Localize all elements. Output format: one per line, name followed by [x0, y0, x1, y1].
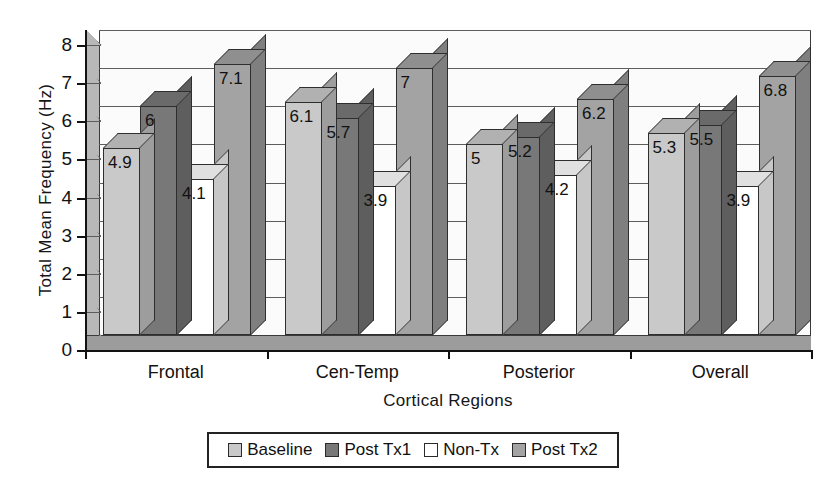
bar — [285, 102, 322, 335]
legend-swatch-icon — [512, 443, 526, 457]
bar-side-face — [796, 46, 811, 335]
y-axis-tick-label: 0 — [0, 340, 72, 359]
bar-value-label: 5.2 — [508, 143, 532, 160]
legend-item[interactable]: Non-Tx — [424, 440, 499, 460]
x-axis-group-label: Frontal — [86, 362, 266, 383]
legend-item[interactable]: Post Tx1 — [325, 440, 411, 460]
bar — [648, 133, 685, 335]
x-axis-tick — [267, 350, 269, 359]
bar-value-label: 5.3 — [653, 139, 677, 156]
bar-value-label: 4.1 — [182, 185, 206, 202]
bar-value-label: 4.2 — [545, 181, 569, 198]
bar-side-face — [359, 88, 374, 335]
bar-side-face — [177, 76, 192, 335]
legend-swatch-icon — [228, 443, 242, 457]
bar-value-label: 5.5 — [690, 131, 714, 148]
y-axis-tick-label: 7 — [0, 73, 72, 92]
legend-label: Non-Tx — [443, 440, 499, 460]
legend-label: Post Tx2 — [531, 440, 598, 460]
bar-value-label: 6.8 — [764, 82, 788, 99]
bar-value-label: 5 — [471, 150, 480, 167]
bar-value-label: 3.9 — [364, 192, 388, 209]
chart-legend: BaselinePost Tx1Non-TxPost Tx2 — [207, 432, 619, 468]
bar-front-face — [285, 102, 322, 335]
bar-value-label: 6 — [145, 112, 154, 129]
legend-swatch-icon — [325, 443, 339, 457]
y-axis-tick — [77, 83, 85, 85]
bar-value-label: 6.2 — [582, 105, 606, 122]
bar-side-face — [614, 69, 629, 335]
bar-side-face — [433, 38, 448, 335]
y-axis-tick-label: 8 — [0, 35, 72, 54]
bar-value-label: 3.9 — [727, 192, 751, 209]
y-axis-tick — [77, 45, 85, 47]
chart-container: Total Mean Frequency (Hz) 6.83.95.55.36.… — [0, 0, 824, 496]
x-axis-group-label: Overall — [630, 362, 810, 383]
x-axis-tick — [448, 350, 450, 359]
legend-item[interactable]: Baseline — [228, 440, 312, 460]
bar-side-face — [140, 118, 155, 335]
bar-front-face — [103, 148, 140, 335]
x-axis-group-label: Cen-Temp — [267, 362, 447, 383]
bar-value-label: 6.1 — [290, 108, 314, 125]
bars-layer: 6.83.95.55.36.24.25.2573.95.76.17.14.164… — [85, 30, 811, 350]
legend-label: Post Tx1 — [344, 440, 411, 460]
y-axis-tick-label: 5 — [0, 149, 72, 168]
bar-front-face — [648, 133, 685, 335]
bar-value-label: 7 — [401, 74, 410, 91]
bar-value-label: 5.7 — [327, 124, 351, 141]
bar-side-face — [577, 145, 592, 335]
y-axis-tick — [77, 121, 85, 123]
bar-value-label: 7.1 — [219, 70, 243, 87]
y-axis-tick — [77, 350, 85, 352]
y-axis-line — [85, 30, 87, 350]
y-axis-tick-label: 1 — [0, 302, 72, 321]
bar-value-label: 4.9 — [108, 154, 132, 171]
bar-front-face — [466, 144, 503, 335]
bar — [466, 144, 503, 335]
y-axis-tick-label: 6 — [0, 111, 72, 130]
x-axis-tick — [630, 350, 632, 359]
y-axis-tick-label: 2 — [0, 264, 72, 283]
bar-side-face — [722, 95, 737, 335]
legend-label: Baseline — [247, 440, 312, 460]
y-axis-tick — [77, 159, 85, 161]
y-axis-tick — [77, 236, 85, 238]
y-axis-tick-label: 4 — [0, 188, 72, 207]
y-axis-tick — [77, 274, 85, 276]
bar-side-face — [251, 34, 266, 335]
x-axis-title: Cortical Regions — [85, 391, 811, 411]
y-axis-tick — [77, 312, 85, 314]
x-axis-group-label: Posterior — [449, 362, 629, 383]
legend-item[interactable]: Post Tx2 — [512, 440, 598, 460]
bar — [103, 148, 140, 335]
x-axis-tick — [85, 350, 87, 359]
bar-side-face — [540, 107, 555, 335]
x-axis-tick — [811, 350, 813, 359]
y-axis-tick — [77, 198, 85, 200]
legend-swatch-icon — [424, 443, 438, 457]
y-axis-tick-label: 3 — [0, 226, 72, 245]
bar-side-face — [322, 72, 337, 335]
